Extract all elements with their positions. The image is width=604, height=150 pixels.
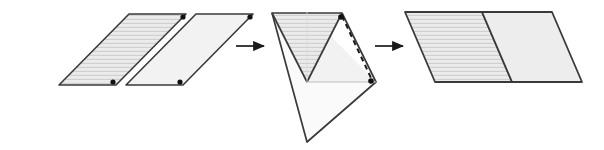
vertex-dot-bottom-right xyxy=(110,79,115,84)
vertex-dot-top-right xyxy=(180,14,185,19)
vertex-dot-right xyxy=(368,78,374,84)
vertex-dot-top-right xyxy=(247,14,252,19)
stage-three-group xyxy=(405,12,582,82)
vertex-dot-bottom-right xyxy=(177,79,182,84)
geometry-figure xyxy=(0,0,604,150)
vertex-dot-top xyxy=(338,14,344,20)
figure-canvas xyxy=(0,0,604,150)
